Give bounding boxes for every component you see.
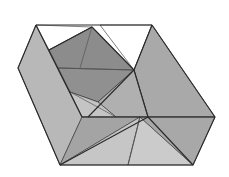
box-illustration — [0, 0, 229, 177]
facets-group — [18, 25, 215, 165]
folded-box-diagram — [0, 0, 229, 177]
